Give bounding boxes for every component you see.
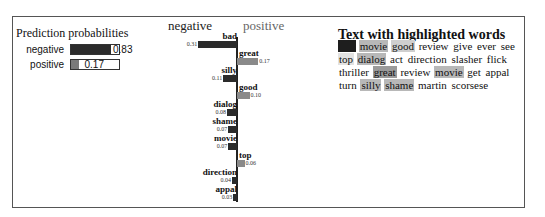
highlighted-word: ever xyxy=(476,40,497,52)
highlighted-word: good xyxy=(391,40,415,52)
highlighted-word: silly xyxy=(360,79,381,91)
highlighted-word: movie xyxy=(434,66,464,78)
probability-bar: 0.83 xyxy=(70,44,120,55)
probability-bar: 0.17 xyxy=(70,59,120,70)
highlighted-word: review xyxy=(399,66,431,78)
feature-label-silly: silly xyxy=(221,65,237,75)
probability-value: 0.83 xyxy=(113,44,132,55)
highlighted-word: see xyxy=(500,40,516,52)
feature-label-top: top xyxy=(239,150,252,160)
probability-label: negative xyxy=(0,44,70,55)
highlighted-word: give xyxy=(452,40,473,52)
highlighted-word: thriller xyxy=(338,66,370,78)
highlighted-word: shame xyxy=(384,79,414,91)
feature-label-great: great xyxy=(239,48,259,58)
feature-bar-silly xyxy=(223,75,237,82)
highlighted-word: appal xyxy=(485,66,511,78)
highlighted-word: great xyxy=(373,66,397,78)
feature-bar-great xyxy=(237,58,258,65)
feature-value-movie: 0.07 xyxy=(217,143,228,149)
highlighted-word: act xyxy=(389,53,404,65)
legend-positive: positive xyxy=(243,18,284,34)
feature-label-dialog: dialog xyxy=(213,99,237,109)
highlighted-word: scorsese xyxy=(451,79,490,91)
probability-value: 0.17 xyxy=(85,59,104,70)
probability-bar-fill xyxy=(71,60,79,69)
feature-value-direction: 0.04 xyxy=(221,177,232,183)
feature-label-movie: movie xyxy=(214,133,237,143)
feature-bar-top xyxy=(237,160,245,167)
feature-value-top: 0.06 xyxy=(246,160,257,166)
feature-bar-bad xyxy=(198,41,237,48)
feature-label-appal: appal xyxy=(215,184,237,194)
highlighted-word: review xyxy=(418,40,450,52)
highlighted-word: flick xyxy=(486,53,508,65)
probability-row-positive: positive0.17 xyxy=(0,58,120,70)
feature-value-appal: 0.03 xyxy=(222,194,233,200)
feature-value-shame: 0.07 xyxy=(217,126,228,132)
highlighted-text: bad movie good review give ever see top … xyxy=(338,40,528,92)
highlighted-word: slasher xyxy=(451,53,484,65)
highlighted-word: get xyxy=(466,66,481,78)
feature-label-bad: bad xyxy=(222,31,237,41)
probability-bar-fill xyxy=(71,45,111,54)
feature-bar-appal xyxy=(233,194,237,201)
highlighted-word: turn xyxy=(338,79,358,91)
feature-value-bad: 0.31 xyxy=(187,41,198,47)
feature-bar-good xyxy=(237,92,250,99)
feature-value-good: 0.10 xyxy=(251,92,262,98)
prediction-probabilities-title: Prediction probabilities xyxy=(16,26,128,41)
probability-label: positive xyxy=(0,59,70,70)
legend-negative: negative xyxy=(168,18,212,34)
highlighted-word: martin xyxy=(417,79,448,91)
feature-value-silly: 0.11 xyxy=(212,75,222,81)
highlighted-word: movie xyxy=(359,40,389,52)
feature-value-dialog: 0.08 xyxy=(216,109,227,115)
highlighted-word: top xyxy=(338,53,354,65)
feature-label-good: good xyxy=(239,82,258,92)
highlighted-word: direction xyxy=(407,53,448,65)
feature-bar-direction xyxy=(232,177,237,184)
feature-label-direction: direction xyxy=(203,167,237,177)
feature-value-great: 0.17 xyxy=(259,58,270,64)
feature-bar-dialog xyxy=(227,109,237,116)
feature-bar-shame xyxy=(228,126,237,133)
highlighted-word: bad xyxy=(338,40,356,52)
feature-bar-movie xyxy=(228,143,237,150)
feature-label-shame: shame xyxy=(213,116,238,126)
highlighted-word: dialog xyxy=(357,53,387,65)
probability-row-negative: negative0.83 xyxy=(0,43,120,55)
